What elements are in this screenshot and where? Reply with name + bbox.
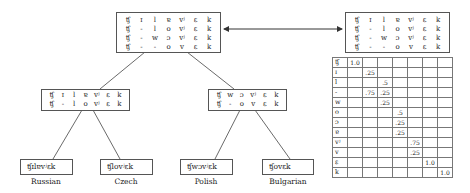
matrix-cell: .5	[393, 108, 408, 118]
matrix-row: ɪ.25	[333, 68, 453, 78]
matrix-cell	[438, 128, 453, 138]
matrix-cell: .25	[408, 148, 423, 158]
profile-matrix: ʧ1.0ɪ.25l.5-.75.25w.25o.5ɔ.25ɐ.25vʲ.75v.…	[332, 57, 453, 178]
alignment-cell: o	[162, 25, 176, 34]
matrix-cell	[363, 58, 378, 68]
alignment-cell: ɛ	[259, 100, 271, 109]
alignment-cell: k	[271, 91, 283, 100]
alignment-cell: l	[69, 91, 80, 100]
alignment-cell: ʧ	[350, 34, 364, 43]
alignment-cell: ɐ	[162, 16, 176, 25]
language-label: Russian	[11, 177, 81, 186]
alignment-cell: ʧ	[121, 34, 135, 43]
alignment-cell: ɐ	[80, 91, 91, 100]
alignment-cell: o	[236, 100, 248, 109]
alignment-cell: vʲ	[404, 25, 418, 34]
alignment-cell: ɪ	[135, 16, 149, 25]
matrix-cell	[438, 158, 453, 168]
matrix-row: ʧ1.0	[333, 58, 453, 68]
matrix-cell	[438, 68, 453, 78]
matrix-cell: .75	[363, 88, 378, 98]
alignment-cell: ɛ	[418, 34, 432, 43]
alignment-cell: ʧ	[121, 43, 135, 52]
matrix-cell	[393, 158, 408, 168]
matrix-cell	[408, 118, 423, 128]
alignment-cell: ɔ	[162, 34, 176, 43]
matrix-cell	[408, 158, 423, 168]
alignment-cell: w	[377, 34, 391, 43]
matrix-cell	[408, 98, 423, 108]
matrix-cell: 1.0	[423, 158, 438, 168]
matrix-cell	[393, 88, 408, 98]
alignment-cell: ɛ	[189, 43, 203, 52]
alignment-cell: ʧ	[121, 25, 135, 34]
matrix-cell	[408, 128, 423, 138]
alignment-cell: k	[431, 16, 445, 25]
alignment-cell: v	[248, 100, 260, 109]
alignment-cell: k	[431, 25, 445, 34]
matrix-cell	[423, 78, 438, 88]
matrix-cell: 1.0	[438, 168, 453, 178]
matrix-cell	[438, 118, 453, 128]
alignment-cell: -	[135, 34, 149, 43]
alignment-cell: ɛ	[189, 16, 203, 25]
alignment-cell: ɪ	[364, 16, 378, 25]
alignment-cell: k	[202, 43, 216, 52]
alignment-cell: ɛ	[418, 25, 432, 34]
matrix-cell	[363, 148, 378, 158]
matrix-cell	[408, 88, 423, 98]
leaf-word: ʧovɛk	[269, 162, 291, 171]
alignment-cell: k	[114, 91, 125, 100]
matrix-cell	[438, 78, 453, 88]
matrix-cell	[348, 88, 363, 98]
matrix-row: v.25	[333, 148, 453, 158]
profile-alignment-box: ʧɪlɐvʲɛkʧ-lovʲɛkʧ-wɔvʲɛkʧ--ovɛk	[345, 12, 450, 53]
matrix-cell	[423, 118, 438, 128]
alignment-cell: l	[148, 25, 162, 34]
alignment-cell: vʲ	[404, 16, 418, 25]
alignment-cell: k	[431, 43, 445, 52]
matrix-cell	[378, 168, 393, 178]
matrix-cell	[378, 158, 393, 168]
matrix-cell	[438, 98, 453, 108]
matrix-cell: .25	[393, 118, 408, 128]
matrix-cell: .25	[378, 88, 393, 98]
matrix-row: ɐ.25	[333, 128, 453, 138]
alignment-cell: -	[377, 43, 391, 52]
matrix-cell	[348, 128, 363, 138]
matrix-cell: .25	[363, 68, 378, 78]
matrix-cell	[378, 138, 393, 148]
alignment-cell: -	[364, 34, 378, 43]
alignment-cell: w	[225, 91, 237, 100]
alignment-cell: l	[377, 25, 391, 34]
matrix-row: ɛ1.0	[333, 158, 453, 168]
matrix-cell	[363, 118, 378, 128]
matrix-cell	[438, 148, 453, 158]
matrix-cell	[363, 138, 378, 148]
matrix-cell	[423, 138, 438, 148]
matrix-cell	[363, 108, 378, 118]
alignment-cell: ɛ	[418, 43, 432, 52]
alignment-cell: k	[114, 100, 125, 109]
edge-root-right	[187, 52, 234, 89]
alignment-cell: v	[175, 43, 189, 52]
leaf-word: ʧwɔvʲɛk	[187, 162, 217, 171]
alignment-cell: ɛ	[189, 25, 203, 34]
leaf-word: ʧlovʲɛk	[107, 162, 133, 171]
matrix-row-label: ɛ	[333, 158, 348, 168]
matrix-row-label: vʲ	[333, 138, 348, 148]
alignment-cell: ɛ	[102, 100, 113, 109]
matrix-row: ɔ.25	[333, 118, 453, 128]
alignment-cell: vʲ	[175, 16, 189, 25]
alignment-cell: vʲ	[91, 91, 102, 100]
matrix-cell	[393, 138, 408, 148]
matrix-row: k1.0	[333, 168, 453, 178]
matrix-cell	[393, 58, 408, 68]
right-alignment-grid: ʧwɔvʲɛkʧ-ovɛk	[213, 91, 282, 109]
alignment-cell: ʧ	[350, 25, 364, 34]
matrix-cell	[348, 148, 363, 158]
matrix-cell	[348, 78, 363, 88]
matrix-cell	[423, 168, 438, 178]
matrix-cell	[378, 68, 393, 78]
alignment-cell: l	[69, 100, 80, 109]
